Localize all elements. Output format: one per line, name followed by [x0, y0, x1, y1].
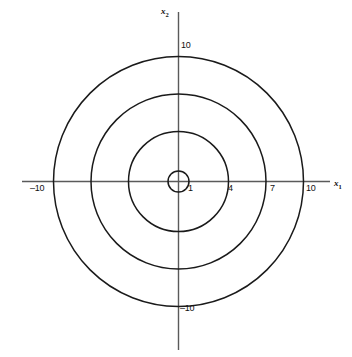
y-axis-title-sub: 2	[166, 11, 169, 18]
concentric-circles-plot	[0, 0, 352, 357]
x-axis-title-sub: 1	[339, 183, 342, 190]
y-tick-label-neg10: –10	[180, 303, 194, 313]
y-axis-title: x2	[161, 6, 169, 18]
x-tick-label-1: 1	[188, 183, 193, 193]
x-axis-title: x1	[334, 178, 342, 190]
x-tick-label-neg10: –10	[30, 183, 44, 193]
x-tick-label-10: 10	[306, 183, 316, 193]
y-tick-label-10: 10	[181, 40, 191, 50]
x-tick-label-7: 7	[270, 183, 275, 193]
x-tick-label-4: 4	[228, 183, 233, 193]
figure-canvas: x2 x1 –10 1 4 7 10 10 –10	[0, 0, 352, 357]
